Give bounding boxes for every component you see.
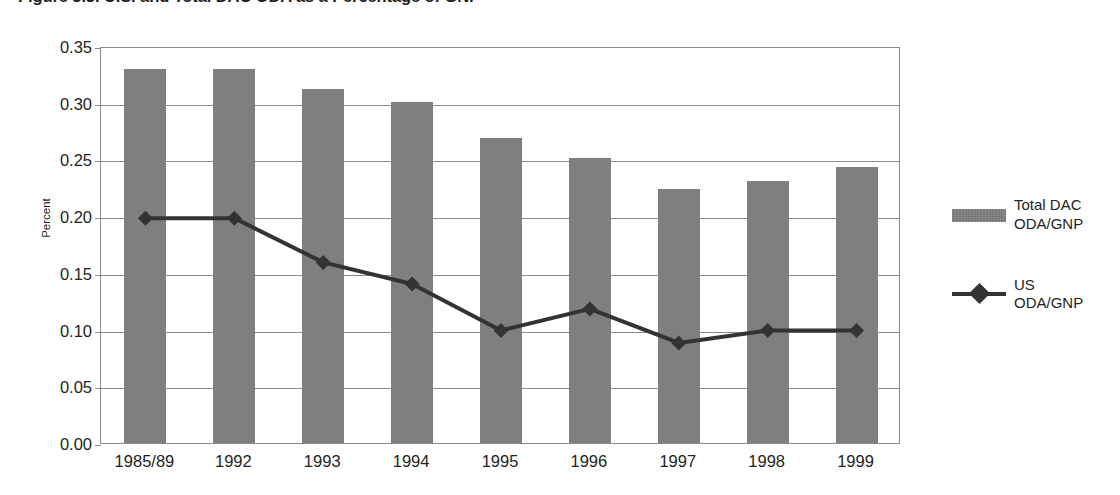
x-tick-label: 1998 bbox=[748, 452, 785, 471]
line-series bbox=[101, 48, 901, 445]
y-tick-label: 0.20 bbox=[30, 209, 92, 226]
legend-label-line2: ODA/GNP bbox=[1014, 294, 1083, 311]
data-point-1995 bbox=[494, 323, 509, 338]
legend-label-line1: US bbox=[1014, 276, 1035, 293]
y-tick-mark bbox=[95, 445, 101, 446]
data-point-1997 bbox=[671, 335, 686, 350]
y-tick-label: 0.15 bbox=[30, 266, 92, 283]
x-tick-label: 1994 bbox=[393, 452, 430, 471]
data-point-1992 bbox=[227, 211, 242, 226]
legend-entry-us[interactable]: US ODA/GNP bbox=[952, 276, 1112, 314]
legend-label-total-dac: Total DAC ODA/GNP bbox=[1014, 196, 1083, 234]
y-tick-label: 0.35 bbox=[30, 39, 92, 56]
x-tick-label: 1995 bbox=[482, 452, 519, 471]
y-tick-label: 0.30 bbox=[30, 95, 92, 112]
x-tick-label: 1993 bbox=[304, 452, 341, 471]
legend-label-us: US ODA/GNP bbox=[1014, 276, 1083, 314]
plot-area bbox=[100, 47, 900, 444]
chart-figure: Percent 0.350.300.250.200.150.100.050.00… bbox=[0, 0, 1120, 495]
x-tick-label: 1992 bbox=[215, 452, 252, 471]
data-point-1985/89 bbox=[138, 211, 153, 226]
x-tick-label: 1996 bbox=[571, 452, 608, 471]
legend-line-diamond-icon bbox=[952, 279, 1008, 309]
legend: Total DAC ODA/GNP US ODA/GNP bbox=[952, 196, 1112, 355]
data-point-1993 bbox=[316, 255, 331, 270]
y-tick-label: 0.00 bbox=[30, 436, 92, 453]
legend-entry-total-dac[interactable]: Total DAC ODA/GNP bbox=[952, 196, 1112, 234]
y-tick-label: 0.05 bbox=[30, 379, 92, 396]
x-tick-label: 1999 bbox=[837, 452, 874, 471]
x-tick-label: 1997 bbox=[659, 452, 696, 471]
legend-label-line2: ODA/GNP bbox=[1014, 215, 1083, 232]
data-point-1999 bbox=[849, 323, 864, 338]
x-tick-label: 1985/89 bbox=[115, 452, 175, 471]
data-point-1998 bbox=[760, 323, 775, 338]
legend-swatch-icon bbox=[952, 200, 1008, 230]
data-point-1994 bbox=[405, 276, 420, 291]
data-point-1996 bbox=[582, 301, 597, 316]
x-axis-tick-labels: 1985/8919921993199419951996199719981999 bbox=[100, 452, 900, 482]
y-axis-tick-labels: 0.350.300.250.200.150.100.050.00 bbox=[30, 0, 92, 495]
legend-label-line1: Total DAC bbox=[1014, 196, 1082, 213]
y-tick-label: 0.10 bbox=[30, 322, 92, 339]
y-tick-label: 0.25 bbox=[30, 152, 92, 169]
